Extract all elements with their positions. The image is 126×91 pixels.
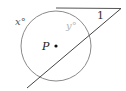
arc-label-y: y° [65,20,77,31]
center-label-p: P [41,40,50,53]
center-point [54,44,57,47]
tangent-line [56,8,121,9]
arc-label-x: x° [15,16,26,27]
geometry-diagram: x° y° 1 P [0,0,126,91]
angle-label-1: 1 [97,9,104,22]
